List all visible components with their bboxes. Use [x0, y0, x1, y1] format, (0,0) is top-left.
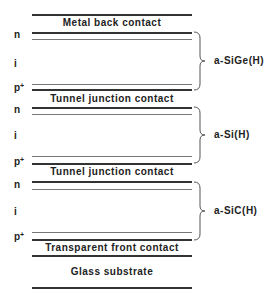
- cell1-p-bottom: [32, 89, 192, 91]
- material-label-si: a-Si(H): [214, 129, 250, 140]
- cell2-n-label: n: [14, 104, 20, 115]
- cell2-n-bottom: [32, 114, 192, 115]
- material-label-sige: a-SiGe(H): [214, 55, 264, 66]
- cell2-i-label: i: [14, 130, 17, 141]
- cell1-p-top: [32, 84, 192, 85]
- cell3-n-bottom: [32, 189, 192, 190]
- cell3-p-label: p+: [14, 231, 24, 242]
- transparent-front-contact-label: Transparent front contact: [32, 242, 192, 253]
- tunnel-junction-label-2: Tunnel junction contact: [32, 166, 192, 177]
- cell1-n-bottom: [32, 39, 192, 40]
- metal-back-contact-label: Metal back contact: [32, 17, 192, 28]
- cell2-p-top: [32, 156, 192, 157]
- cell3-p-top: [32, 232, 192, 233]
- brace-icon: [192, 105, 212, 165]
- tunnel-junction-label-1: Tunnel junction contact: [32, 93, 192, 104]
- cell3-n-top: [32, 181, 192, 183]
- cell1-p-label: p+: [14, 82, 24, 93]
- cell1-n-label: n: [14, 29, 20, 40]
- bottom-line: [32, 287, 192, 289]
- cell3-i-label: i: [14, 206, 17, 217]
- cell1-i-label: i: [14, 58, 17, 69]
- brace-icon: [192, 180, 212, 242]
- brace-icon: [192, 30, 212, 92]
- cell1-n-top: [32, 32, 192, 34]
- glass-top-line: [32, 255, 192, 257]
- top-line: [32, 14, 192, 16]
- cell2-n-top: [32, 107, 192, 109]
- glass-substrate-label: Glass substrate: [32, 266, 192, 277]
- material-label-sic: a-SiC(H): [214, 205, 257, 216]
- cell2-p-bottom: [32, 163, 192, 165]
- cell3-n-label: n: [14, 179, 20, 190]
- cell3-p-bottom: [32, 239, 192, 241]
- cell2-p-label: p+: [14, 156, 24, 167]
